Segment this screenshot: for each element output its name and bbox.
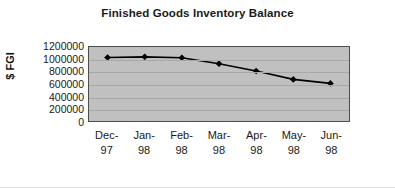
x-axis-tick-label-line: 98 [163,143,200,158]
data-point-marker [290,76,297,83]
x-axis-tick-label-line: 98 [275,143,312,158]
plot-area [88,46,350,122]
x-axis-tick-labels: Dec-97Jan-98Feb-98Mar-98Apr-98May-98Jun-… [88,128,350,168]
y-axis-tick-label: 400000 [22,92,84,102]
y-axis-tick-label: 1200000 [22,41,84,51]
x-axis-tick-label: Mar-98 [200,128,237,158]
x-axis-tick-label-line: 98 [313,143,350,158]
y-axis-tick-label: 1000000 [22,54,84,64]
x-axis-tick-label-line: Jan- [125,128,162,143]
y-axis-tick-label: 800000 [22,66,84,76]
x-axis-tick-label-line: 98 [238,143,275,158]
x-axis-tick-label: May-98 [275,128,312,158]
y-axis-title: $ FGI [4,38,16,94]
y-axis-tick-label: 600000 [22,79,84,89]
gridline [89,110,349,111]
x-axis-tick-label-line: Apr- [238,128,275,143]
gridline [89,60,349,61]
x-axis-tick-label: Dec-97 [88,128,125,158]
y-axis-tick-label: 200000 [22,104,84,114]
y-axis-tick-labels: 120000010000008000006000004000002000000 [22,41,84,127]
gridline [89,98,349,99]
gridline [89,72,349,73]
chart-title: Finished Goods Inventory Balance [0,7,395,19]
x-axis-tick-label-line: 98 [125,143,162,158]
x-axis-tick-label-line: Jun- [313,128,350,143]
x-axis-tick-label-line: May- [275,128,312,143]
x-axis-tick-label-line: Dec- [88,128,125,143]
data-point-marker [216,60,223,67]
x-axis-tick-label-line: 98 [200,143,237,158]
x-axis-tick-label: Feb-98 [163,128,200,158]
x-axis-tick-label-line: Feb- [163,128,200,143]
x-axis-tick-label: Jun-98 [313,128,350,158]
x-axis-tick-label: Jan-98 [125,128,162,158]
y-axis-tick-label: 0 [22,117,84,127]
x-axis-tick-label-line: Mar- [200,128,237,143]
x-axis-tick-label-line: 97 [88,143,125,158]
x-axis-tick-label: Apr-98 [238,128,275,158]
chart-container: Finished Goods Inventory Balance $ FGI 1… [0,0,395,188]
gridline [89,85,349,86]
